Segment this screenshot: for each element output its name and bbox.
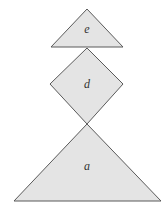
label-e: e <box>84 22 90 36</box>
diagram-canvas: e d a <box>0 0 165 208</box>
shape-d-group: d <box>50 48 123 124</box>
shape-e-group: e <box>51 9 123 47</box>
shape-a-group: a <box>14 124 161 201</box>
label-d: d <box>84 77 91 91</box>
diagram-svg: e d a <box>0 0 165 208</box>
label-a: a <box>84 159 90 173</box>
